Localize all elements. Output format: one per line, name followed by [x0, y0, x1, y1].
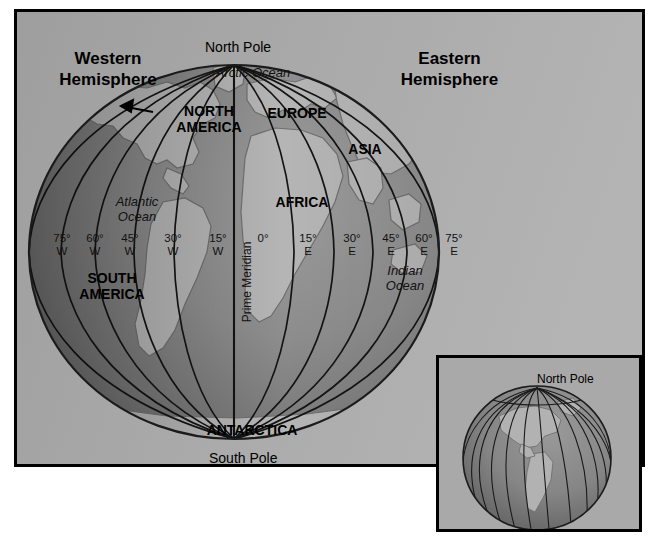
asia-label: ASIA	[335, 141, 395, 157]
africa-label: AFRICA	[262, 194, 342, 210]
longitude-label-30W: 30° W	[160, 232, 186, 258]
longitude-label-60W: 60° W	[82, 232, 108, 258]
north-pole-label: North Pole	[205, 39, 271, 55]
eastern-hemisphere-label: Eastern Hemisphere	[362, 48, 537, 90]
longitude-label-15W: 15° W	[205, 232, 231, 258]
longitude-label-75E: 75° E	[441, 232, 467, 258]
longitude-label-15E: 15° E	[295, 232, 321, 258]
figure-root: Western Hemisphere Eastern Hemisphere No…	[0, 0, 659, 536]
longitude-label-30E: 30° E	[339, 232, 365, 258]
north-america-label: NORTH AMERICA	[159, 103, 259, 135]
longitude-label-0: 0°	[250, 232, 276, 245]
south-america-label: SOUTH AMERICA	[62, 270, 162, 302]
inset-globe-panel: North Pole	[436, 355, 642, 532]
longitude-label-45W: 45° W	[117, 232, 143, 258]
south-pole-label: South Pole	[209, 450, 278, 466]
indian-ocean-label: Indian Ocean	[370, 263, 440, 293]
prime-meridian-label: Prime Meridian	[240, 232, 254, 332]
longitude-label-45E: 45° E	[378, 232, 404, 258]
europe-label: EUROPE	[257, 105, 337, 121]
inset-north-pole-label: North Pole	[537, 372, 594, 386]
antarctica-label: ANTARCTICA	[192, 422, 312, 438]
western-hemisphere-label: Western Hemisphere	[23, 48, 193, 90]
arctic-ocean-label: Arctic Ocean	[193, 65, 313, 80]
atlantic-ocean-label: Atlantic Ocean	[97, 194, 177, 224]
longitude-label-60E: 60° E	[411, 232, 437, 258]
longitude-label-75W: 75° W	[49, 232, 75, 258]
